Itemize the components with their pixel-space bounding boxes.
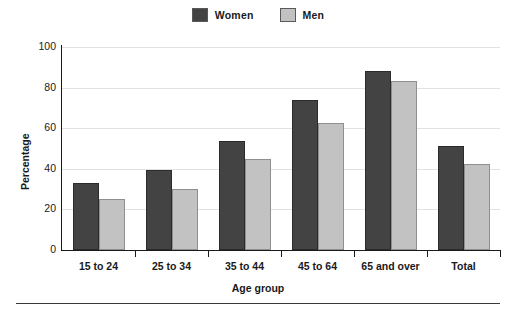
y-axis-title: Percentage bbox=[10, 28, 22, 118]
y-tick-label: 0 bbox=[26, 243, 56, 255]
bar-women bbox=[146, 170, 172, 250]
x-tick-mark bbox=[135, 251, 136, 257]
y-tick-label: 100 bbox=[26, 40, 56, 52]
y-tick-label: 80 bbox=[26, 81, 56, 93]
bar-men bbox=[391, 81, 417, 251]
y-tick-label: 20 bbox=[26, 202, 56, 214]
bar-men bbox=[245, 159, 271, 250]
bar-men bbox=[172, 189, 198, 250]
y-axis-title-text: Percentage bbox=[19, 100, 31, 190]
x-tick-mark bbox=[208, 251, 209, 257]
x-tick-mark bbox=[427, 251, 428, 257]
bar-men bbox=[464, 164, 490, 250]
footer-divider bbox=[16, 303, 500, 304]
bar-women bbox=[292, 100, 318, 250]
x-tick-mark bbox=[281, 251, 282, 257]
x-tick-label: Total bbox=[419, 260, 509, 272]
bar-women bbox=[438, 146, 464, 250]
bar-women bbox=[365, 71, 391, 250]
x-tick-mark bbox=[354, 251, 355, 257]
bars-layer bbox=[62, 47, 500, 250]
x-axis-title: Age group bbox=[0, 282, 516, 294]
bar-men bbox=[318, 123, 344, 250]
bar-men bbox=[99, 199, 125, 250]
bar-chart-figure: Women Men 020406080100 Percentage 15 to … bbox=[0, 0, 516, 314]
plot-area: 020406080100 Percentage 15 to 2425 to 34… bbox=[0, 0, 516, 314]
bar-women bbox=[73, 183, 99, 250]
x-tick-mark bbox=[500, 251, 501, 257]
bar-women bbox=[219, 141, 245, 250]
